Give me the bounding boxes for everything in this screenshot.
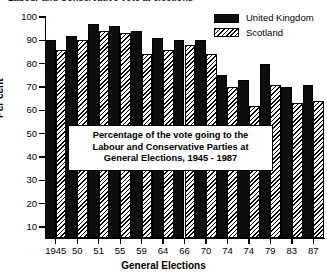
y-tick-label: 80 xyxy=(13,59,37,69)
bar-united-kingdom-87 xyxy=(303,85,314,238)
chart-figure: Labour and Conservative vote at election… xyxy=(0,0,327,275)
caption-box: Percentage of the vote going to the Labo… xyxy=(68,125,273,171)
y-tick-label: 90 xyxy=(13,35,37,45)
legend-item-scotland: Scotland xyxy=(214,27,314,40)
x-tick-mark xyxy=(270,239,271,244)
bar-scotland-87 xyxy=(313,101,324,238)
x-tick-mark xyxy=(227,239,228,244)
x-tick-mark xyxy=(205,239,206,244)
caption-line-3: General Elections, 1945 - 1987 xyxy=(74,153,267,165)
y-axis-title: Per cent xyxy=(0,79,5,118)
x-tick-mark xyxy=(291,239,292,244)
legend-swatch-solid-icon xyxy=(214,14,239,23)
legend-item-united-kingdom: United Kingdom xyxy=(214,12,314,25)
legend-label-scotland: Scotland xyxy=(246,27,283,40)
x-tick-mark xyxy=(98,239,99,244)
clipped-headline: Labour and Conservative vote at election… xyxy=(8,0,308,3)
legend-swatch-hatch-icon xyxy=(214,28,239,37)
y-tick-label: 10 xyxy=(13,222,37,232)
y-tick-label: 40 xyxy=(13,152,37,162)
x-tick-mark xyxy=(55,239,56,244)
chart-legend: United Kingdom Scotland xyxy=(214,12,314,41)
y-tick-label: 100 xyxy=(13,12,37,22)
x-tick-mark xyxy=(77,239,78,244)
x-tick-mark xyxy=(120,239,121,244)
y-tick-label: 50 xyxy=(13,129,37,139)
bar-united-kingdom-1945 xyxy=(45,40,56,238)
bar-united-kingdom-83 xyxy=(281,87,292,238)
x-tick-mark xyxy=(313,239,314,244)
x-axis-title: General Elections xyxy=(0,260,327,271)
x-tick-mark xyxy=(141,239,142,244)
x-tick-mark xyxy=(184,239,185,244)
bar-scotland-83 xyxy=(292,103,303,238)
bar-scotland-1945 xyxy=(56,50,67,238)
x-tick-mark xyxy=(162,239,163,244)
y-tick-label: 20 xyxy=(13,199,37,209)
y-tick-label: 30 xyxy=(13,175,37,185)
caption-line-2: Labour and Conservative Parties at xyxy=(74,142,267,154)
caption-line-1: Percentage of the vote going to the xyxy=(74,130,267,142)
y-tick-label: 70 xyxy=(13,82,37,92)
x-tick-label: 87 xyxy=(298,246,327,256)
x-tick-mark xyxy=(248,239,249,244)
y-tick-label: 60 xyxy=(13,105,37,115)
legend-label-united-kingdom: United Kingdom xyxy=(246,12,314,25)
